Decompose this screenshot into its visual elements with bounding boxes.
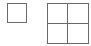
- grid-cell-bottom-right: [68, 24, 88, 44]
- grid-cell-top-left: [48, 4, 68, 24]
- grid-cell-bottom-left: [48, 24, 68, 44]
- grid-cell-top-right: [68, 4, 88, 24]
- single-window-layout-icon[interactable]: [7, 3, 27, 23]
- layout-selector: [0, 0, 91, 46]
- quad-grid-layout-icon[interactable]: [47, 3, 89, 44]
